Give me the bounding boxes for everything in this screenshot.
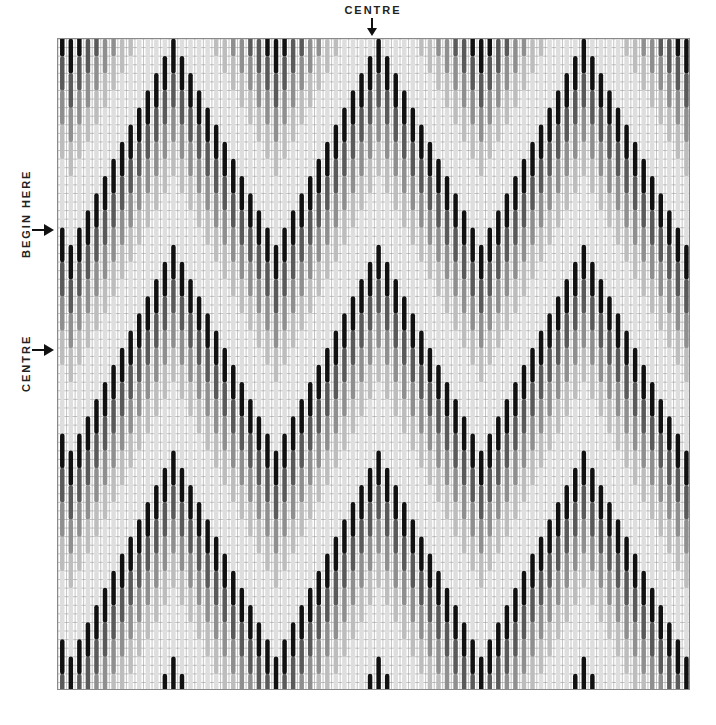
top-centre-label: CENTRE <box>340 4 406 16</box>
stitch-grid <box>58 39 690 690</box>
arrow-right-icon <box>32 224 54 236</box>
arrow-right-icon <box>32 344 54 356</box>
left-centre-label: CENTRE <box>20 335 32 392</box>
bargello-chart <box>57 38 690 690</box>
arrow-down-icon <box>367 18 377 36</box>
begin-here-label: BEGIN HERE <box>20 170 32 258</box>
